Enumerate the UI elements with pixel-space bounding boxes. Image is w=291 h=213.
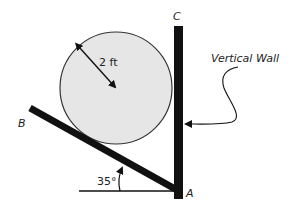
- cylinder-wall-bar-diagram: 2 ft 35° C B A Vertical Wall: [0, 0, 291, 213]
- angle-arc-arrow: [119, 168, 122, 191]
- angle-label: 35°: [97, 175, 117, 188]
- cylinder: [60, 32, 172, 144]
- vertical-wall-label: Vertical Wall: [211, 52, 279, 65]
- vertical-wall-leader-arrow: [186, 67, 238, 124]
- point-a-label: A: [185, 187, 194, 200]
- vertical-wall: [174, 26, 183, 199]
- point-b-label: B: [18, 117, 26, 130]
- radius-label: 2 ft: [99, 56, 118, 69]
- point-c-label: C: [173, 10, 181, 23]
